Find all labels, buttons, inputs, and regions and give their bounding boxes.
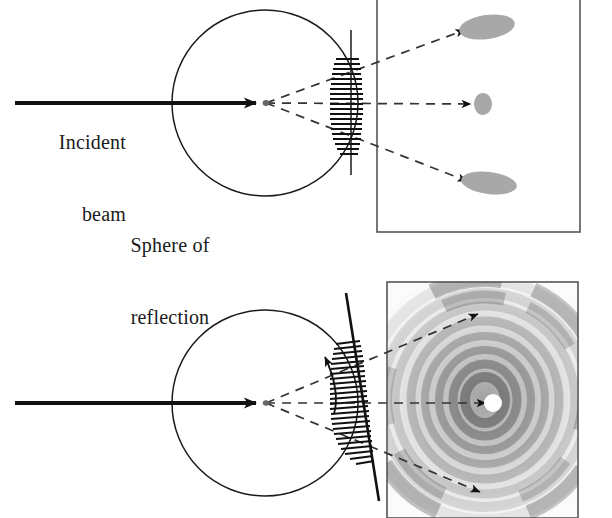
incident-beam-label-top-line1: Incident xyxy=(8,130,126,154)
bottom-panel-graphics xyxy=(0,260,612,518)
central-diffraction-spot xyxy=(474,93,492,115)
diffraction-figure: Incident beam Sphere of reflection xyxy=(0,0,612,518)
panel-powder-sample: Incident beam 2θ xyxy=(0,260,612,518)
beam-stop xyxy=(484,394,502,412)
two-theta-angle-arrow xyxy=(325,357,336,414)
sphere-of-reflection-label-line1: Sphere of xyxy=(85,233,255,257)
panel-single-crystal: Incident beam Sphere of reflection xyxy=(0,0,612,260)
sample-point xyxy=(263,100,270,106)
tilted-reflecting-plane-group xyxy=(330,293,379,501)
sample-point xyxy=(263,400,269,406)
